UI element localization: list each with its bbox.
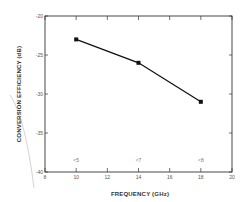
y-tick-label: -35 xyxy=(36,130,43,136)
x-tick-label: 14 xyxy=(136,174,142,180)
x-axis-title: FREQUENCY (GHz) xyxy=(111,191,169,197)
annotation-label: <5 xyxy=(73,157,79,163)
annotation-label: <8 xyxy=(198,157,204,163)
x-tick-label: 18 xyxy=(198,174,204,180)
y-tick-label: -30 xyxy=(36,91,43,97)
series-line xyxy=(76,39,201,101)
data-point-marker xyxy=(199,100,203,104)
y-tick-label: -20 xyxy=(36,13,43,19)
y-tick-label: -25 xyxy=(36,52,43,58)
data-series xyxy=(74,37,203,103)
x-tick-label: 16 xyxy=(167,174,173,180)
y-axis-ticks: -20-25-30-35-40 xyxy=(36,13,232,175)
scan-artifact xyxy=(10,95,34,188)
y-axis-title: CONVERSION EFFICIENCY (dB) xyxy=(16,46,22,142)
x-tick-label: 12 xyxy=(105,174,111,180)
plot-border xyxy=(45,16,232,172)
y-tick-label: -40 xyxy=(36,169,43,175)
x-tick-label: 8 xyxy=(44,174,47,180)
data-point-marker xyxy=(137,61,141,65)
chart: -20-25-30-35-40 8101214161820 <5<7<8 FRE… xyxy=(0,0,244,202)
annotation-label: <7 xyxy=(136,157,142,163)
plot-frame xyxy=(45,16,232,172)
annotations: <5<7<8 xyxy=(73,157,204,163)
x-tick-label: 10 xyxy=(73,174,79,180)
data-point-marker xyxy=(74,37,78,41)
x-axis-ticks: 8101214161820 xyxy=(44,16,235,180)
x-tick-label: 20 xyxy=(229,174,235,180)
